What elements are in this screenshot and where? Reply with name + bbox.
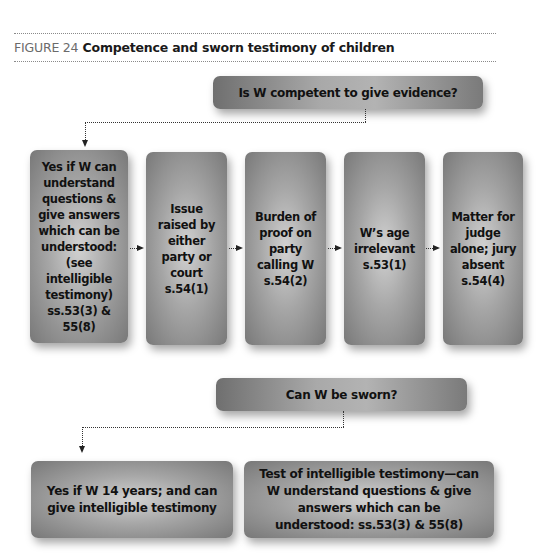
connector-sworn-horizontal [82,427,344,428]
step-3-text: Burden of proof on party calling W s.54(… [250,209,321,289]
connector-step4-step5 [426,248,433,249]
top-rule [14,33,496,34]
sworn-answer-test-text: Test of intelligible testimony—can W und… [258,466,480,534]
step-5-text: Matter for judge alone; jury absent s.54… [448,209,518,289]
arrow-down-icon [79,446,85,453]
competence-step-3: Burden of proof on party calling W s.54(… [245,152,326,345]
connector-competence-to-step1 [85,122,86,142]
connector-step2-step3 [229,248,236,249]
sworn-question-text: Can W be sworn? [286,387,397,403]
competence-step-5: Matter for judge alone; jury absent s.54… [443,152,523,345]
connector-sworn-down [343,411,344,427]
connector-competence-down [365,109,366,122]
connector-step3-step4 [328,248,335,249]
arrow-right-icon [236,245,243,251]
sworn-answer-test: Test of intelligible testimony—can W und… [244,461,494,538]
sworn-answer-age: Yes if W 14 years; and can give intellig… [31,461,233,538]
figure-title: Competence and sworn testimony of childr… [83,40,395,55]
arrow-right-icon [137,245,144,251]
competence-question-text: Is W competent to give evidence? [238,85,457,101]
competence-question-box: Is W competent to give evidence? [213,76,483,109]
connector-sworn-to-answer [82,427,83,448]
figure-caption: FIGURE 24 Competence and sworn testimony… [14,40,394,55]
step-2-text: Issue raised by either party or court s.… [151,201,222,297]
arrow-right-icon [335,245,342,251]
competence-step-1: Yes if W can understand questions & give… [30,150,128,343]
competence-step-2: Issue raised by either party or court s.… [146,152,227,345]
sworn-answer-age-text: Yes if W 14 years; and can give intellig… [45,483,219,517]
step-1-text: Yes if W can understand questions & give… [35,159,123,335]
arrow-down-icon [82,140,88,147]
competence-step-4: W’s age irrelevant s.53(1) [344,152,425,345]
connector-step1-step2 [130,248,137,249]
sworn-question-box: Can W be sworn? [216,378,467,411]
connector-competence-horizontal [85,122,366,123]
bottom-rule [14,61,496,62]
step-4-text: W’s age irrelevant s.53(1) [349,225,420,273]
figure-number: FIGURE 24 [14,40,78,55]
arrow-right-icon [433,245,440,251]
